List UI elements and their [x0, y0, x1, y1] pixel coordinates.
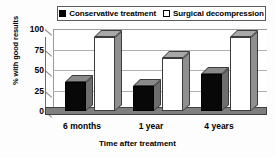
bar-front-face [201, 74, 222, 111]
bar-side-face [115, 31, 122, 111]
legend-item-surgical: Surgical decompression [163, 9, 264, 18]
bar-group-1-year [125, 29, 191, 115]
bar-front-face [133, 86, 154, 111]
bar-group-4-years [193, 29, 259, 115]
bar-front-face [230, 37, 251, 111]
bar-side-face [222, 68, 229, 111]
x-tick-label-6-months: 6 months [50, 121, 114, 131]
bar-conservative-6-months [65, 82, 86, 111]
y-tick-label-50: 50 [20, 65, 44, 75]
bar-front-face [65, 82, 86, 111]
y-tick-label-0: 0 [20, 106, 44, 116]
bar-front-face [94, 37, 115, 111]
bar-chart-figure: Conservative treatment Surgical decompre… [0, 0, 275, 157]
bars-layer [45, 29, 267, 115]
legend-label-conservative: Conservative treatment [69, 9, 156, 18]
y-axis-title: % with good results [11, 6, 20, 96]
bar-side-face [183, 51, 190, 111]
bar-side-face [86, 76, 93, 111]
x-tick-label-1-year: 1 year [119, 121, 183, 131]
y-tick-label-25: 25 [20, 86, 44, 96]
bar-group-6-months [57, 29, 123, 115]
plot-area [45, 29, 267, 115]
bar-surgical-1-year [162, 58, 183, 111]
open-square-icon [163, 10, 170, 17]
legend-item-conservative: Conservative treatment [59, 9, 156, 18]
bar-side-face [251, 31, 258, 111]
filled-square-icon [59, 10, 66, 17]
bar-surgical-4-years [230, 37, 251, 111]
bar-front-face [162, 58, 183, 111]
bar-side-face [154, 80, 161, 111]
legend-label-surgical: Surgical decompression [173, 9, 264, 18]
x-tick-label-4-years: 4 years [187, 121, 251, 131]
y-tick-label-75: 75 [20, 45, 44, 55]
bar-surgical-6-months [94, 37, 115, 111]
y-tick-label-100: 100 [20, 24, 44, 34]
x-axis-title: Time after treatment [0, 139, 275, 148]
bar-conservative-1-year [133, 86, 154, 111]
chart-legend: Conservative treatment Surgical decompre… [57, 6, 266, 21]
bar-conservative-4-years [201, 74, 222, 111]
